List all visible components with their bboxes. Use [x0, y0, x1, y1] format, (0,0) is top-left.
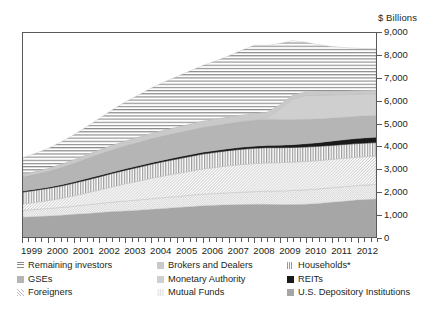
y-axis-tick-label: 1,000 [384, 210, 408, 220]
x-axis-major-tick [22, 238, 23, 243]
x-axis-minor-tick [235, 238, 236, 242]
x-axis-minor-tick [325, 238, 326, 242]
legend-swatch-icon [17, 262, 24, 269]
x-axis-tick-label: 2008 [253, 246, 274, 256]
x-axis-minor-tick [190, 238, 191, 242]
x-axis-minor-tick [41, 238, 42, 242]
x-axis-minor-tick [261, 238, 262, 242]
legend-swatch-icon [17, 289, 24, 296]
x-axis-minor-tick [338, 238, 339, 242]
x-axis-minor-tick [293, 238, 294, 242]
x-axis-major-tick [151, 238, 152, 243]
plot-area [22, 32, 377, 238]
y-axis-tick [377, 55, 382, 56]
x-axis-minor-tick [80, 238, 81, 242]
y-axis-tick [377, 78, 382, 79]
legend-item[interactable]: REITs [287, 275, 437, 284]
x-axis-tick-label: 2006 [202, 246, 223, 256]
x-axis-major-tick [203, 238, 204, 243]
y-axis-tick [377, 146, 382, 147]
legend-label: REITs [298, 275, 323, 284]
x-axis-minor-tick [145, 238, 146, 242]
x-axis-major-tick [358, 238, 359, 243]
x-axis-minor-tick [248, 238, 249, 242]
x-axis-major-tick [254, 238, 255, 243]
legend-label: GSEs [28, 275, 52, 284]
y-axis-tick-label: 8,000 [384, 50, 408, 60]
legend-label: Brokers and Dealers [168, 261, 253, 270]
x-axis-minor-tick [371, 238, 372, 242]
legend-item[interactable]: Brokers and Dealers [157, 261, 287, 270]
legend-swatch-icon [157, 276, 164, 283]
x-axis-minor-tick [164, 238, 165, 242]
y-axis-units-label: $ Billions [378, 12, 417, 23]
series-layer [23, 41, 376, 237]
y-axis-tick-label: 3,000 [384, 165, 408, 175]
legend-label: U.S. Depository Institutions [298, 288, 410, 297]
x-axis-tick-label: 2002 [98, 246, 119, 256]
x-axis-major-tick [125, 238, 126, 243]
x-axis-minor-tick [351, 238, 352, 242]
legend-swatch-icon [157, 289, 164, 296]
x-axis-minor-tick [216, 238, 217, 242]
x-axis-major-tick [229, 238, 230, 243]
x-axis-major-tick [74, 238, 75, 243]
legend-item[interactable]: Households* [287, 261, 437, 270]
legend-item[interactable]: U.S. Depository Institutions [287, 288, 437, 297]
x-axis-tick-label: 2009 [279, 246, 300, 256]
x-axis-tick-label: 2001 [73, 246, 94, 256]
x-axis-tick-label: 2004 [150, 246, 171, 256]
legend-swatch-icon [157, 262, 164, 269]
y-axis: 01,0002,0003,0004,0005,0006,0007,0008,00… [377, 32, 441, 238]
x-axis-tick-label: 2012 [357, 246, 378, 256]
y-axis-tick-label: 0 [384, 233, 389, 243]
stacked-area-chart: $ Billions [0, 0, 441, 313]
x-axis-major-tick [306, 238, 307, 243]
x-axis-minor-tick [377, 238, 378, 242]
y-axis-tick-label: 4,000 [384, 142, 408, 152]
legend-label: Households* [298, 261, 351, 270]
legend-label: Remaining investors [28, 261, 112, 270]
legend-label: Monetary Authority [168, 275, 246, 284]
legend-swatch-icon [287, 289, 294, 296]
x-axis-tick-label: 2005 [176, 246, 197, 256]
x-axis-minor-tick [183, 238, 184, 242]
y-axis-tick-label: 2,000 [384, 187, 408, 197]
x-axis-minor-tick [35, 238, 36, 242]
x-axis-major-tick [99, 238, 100, 243]
x-axis-minor-tick [196, 238, 197, 242]
y-axis-tick [377, 215, 382, 216]
legend-label: Foreigners [28, 288, 72, 297]
x-axis-tick-label: 2007 [228, 246, 249, 256]
x-axis-major-tick [332, 238, 333, 243]
y-axis-tick [377, 169, 382, 170]
x-axis-minor-tick [54, 238, 55, 242]
x-axis-minor-tick [209, 238, 210, 242]
x-axis-labels: 1999200020012002200320042005200620072008… [12, 246, 432, 260]
plot-svg [23, 33, 376, 237]
x-axis-tick-label: 1999 [21, 246, 42, 256]
legend-item[interactable]: Monetary Authority [157, 275, 287, 284]
legend-swatch-icon [287, 276, 294, 283]
legend-item[interactable]: Foreigners [17, 288, 157, 297]
y-axis-tick-label: 5,000 [384, 119, 408, 129]
legend-item[interactable]: Mutual Funds [157, 288, 287, 297]
x-axis-minor-tick [364, 238, 365, 242]
x-axis-major-tick [177, 238, 178, 243]
x-axis-minor-tick [267, 238, 268, 242]
x-axis-minor-tick [287, 238, 288, 242]
x-axis-minor-tick [319, 238, 320, 242]
x-axis-tick-label: 2003 [124, 246, 145, 256]
x-axis-major-tick [48, 238, 49, 243]
y-axis-tick [377, 192, 382, 193]
x-axis-minor-tick [222, 238, 223, 242]
y-axis-tick-label: 7,000 [384, 73, 408, 83]
x-axis-minor-tick [241, 238, 242, 242]
legend-item[interactable]: Remaining investors [17, 261, 157, 270]
x-axis-minor-tick [300, 238, 301, 242]
legend-item[interactable]: GSEs [17, 275, 157, 284]
chart-legend: Remaining investorsBrokers and DealersHo… [17, 259, 437, 301]
x-axis-minor-tick [345, 238, 346, 242]
x-axis-ticks [22, 238, 377, 245]
x-axis-minor-tick [138, 238, 139, 242]
